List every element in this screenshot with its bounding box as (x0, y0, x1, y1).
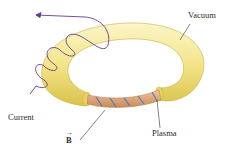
plasma-leader (157, 100, 160, 128)
field-leader (80, 110, 105, 140)
vacuum-label: Vacuum (188, 10, 216, 20)
plasma-section (87, 90, 161, 107)
vacuum-torus (42, 23, 204, 106)
vector-arrow-icon: → (66, 129, 73, 137)
plasma-label: Plasma (152, 128, 177, 138)
tokamak-diagram (0, 0, 232, 152)
magnetic-field-label: → B (66, 135, 72, 145)
current-label: Current (8, 112, 34, 122)
